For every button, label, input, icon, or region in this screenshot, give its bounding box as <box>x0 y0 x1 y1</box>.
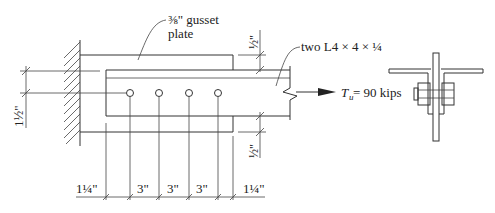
gusset-callout: ⅜" gusset plate <box>138 12 219 60</box>
horizontal-dimension: 1¼" 3" 3" 3" 1¼" <box>76 181 265 200</box>
dim-bottom-offset: ½" <box>247 144 261 158</box>
bolt-3 <box>186 90 193 97</box>
gusset-plate <box>80 55 233 132</box>
gusset-label-line2: plate <box>168 26 193 41</box>
bolt-4 <box>215 90 222 97</box>
bottom-right-vertical-dimension: ½" <box>238 112 266 158</box>
angle-callout: two L4 × 4 × ¼ <box>276 39 382 86</box>
dim-spacing-2: 3" <box>167 181 179 196</box>
dim-edge-right: 1¼" <box>243 181 265 196</box>
bolt-holes <box>127 90 222 97</box>
angle-label: two L4 × 4 × ¼ <box>301 39 382 54</box>
double-angle-member <box>106 66 297 120</box>
left-vertical-dimension: 1½" <box>11 66 126 128</box>
dim-top-offset: ½" <box>247 35 261 49</box>
arrow-right-icon <box>318 88 336 96</box>
dim-edge-left: 1¼" <box>76 181 98 196</box>
dim-spacing-1: 3" <box>137 181 149 196</box>
top-right-vertical-dimension: ½" <box>238 30 266 74</box>
dim-spacing-3: 3" <box>196 181 208 196</box>
bolt-2 <box>156 90 163 97</box>
bolt-1 <box>127 90 134 97</box>
tension-load: T u = 90 kips <box>296 85 402 102</box>
dim-gage: 1½" <box>11 105 26 127</box>
load-value: = 90 kips <box>353 85 402 100</box>
connection-diagram: 1¼" 3" 3" 3" 1¼" 1½" ½" ½" ⅜" gusset pla… <box>0 0 495 213</box>
load-symbol: T <box>341 85 349 100</box>
cross-section-view <box>389 53 483 141</box>
gusset-label: ⅜" gusset <box>168 12 219 27</box>
